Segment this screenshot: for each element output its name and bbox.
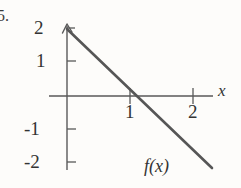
x-axis-name-label: x xyxy=(218,82,226,99)
x-axis-tick-label-2: 2 xyxy=(188,102,198,121)
y-axis-tick-label-neg1: -1 xyxy=(24,119,40,138)
y-axis-tick-label-2: 2 xyxy=(34,18,44,37)
function-line-fx xyxy=(67,29,212,168)
x-axis-tick-label-1: 1 xyxy=(125,102,135,121)
y-axis-tick-label-1: 1 xyxy=(36,51,46,70)
figure-container: 5. 2 1 -1 -2 1 2 x f(x) xyxy=(0,0,241,188)
problem-number: 5. xyxy=(0,8,9,24)
function-label-fx: f(x) xyxy=(144,157,169,175)
y-axis-tick-label-neg2: -2 xyxy=(24,152,40,171)
